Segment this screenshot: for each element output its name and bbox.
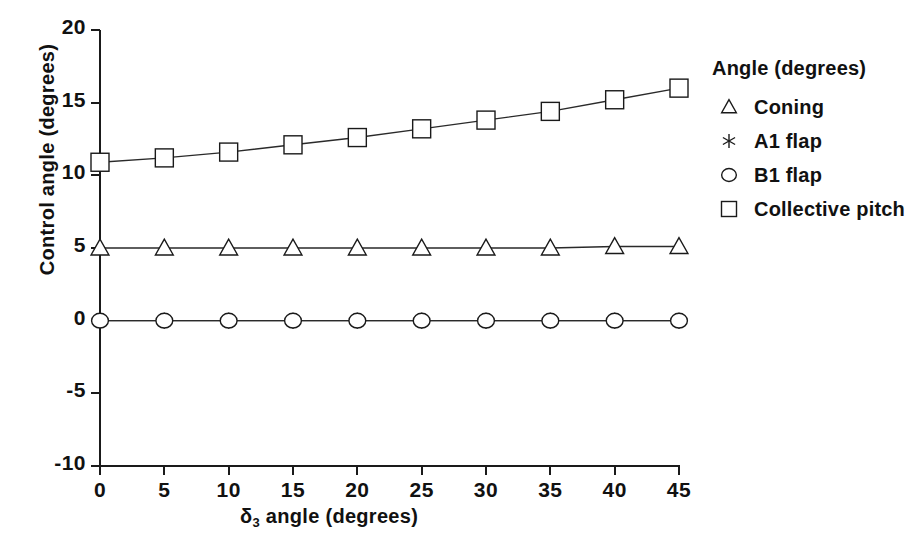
legend-item-coning: Coning [712, 90, 892, 124]
triangle-marker-icon [220, 239, 238, 255]
square-marker-icon [670, 79, 688, 97]
circle-marker-icon [478, 313, 495, 328]
y-tick [91, 174, 100, 176]
y-tick [91, 392, 100, 394]
circle-marker-icon [156, 313, 173, 328]
square-marker-icon [722, 202, 737, 217]
square-marker-icon [712, 196, 746, 222]
asterisk-marker-icon [479, 313, 493, 329]
legend-rows: ConingA1 flapB1 flapCollective pitch [712, 90, 892, 226]
asterisk-marker-icon [712, 128, 746, 154]
circle-marker-icon [285, 313, 302, 328]
y-tick-label: -5 [66, 378, 86, 402]
y-tick-label: 15 [62, 88, 86, 112]
x-axis-line [99, 465, 680, 467]
circle-marker-icon [722, 169, 737, 182]
triangle-marker-icon [712, 94, 746, 120]
legend-item-label: Collective pitch [754, 198, 905, 221]
x-tick [549, 466, 551, 475]
asterisk-marker-icon [543, 313, 557, 329]
square-marker-icon [413, 120, 431, 138]
y-tick-label: 10 [62, 160, 86, 184]
chart-legend: Angle (degrees) ConingA1 flapB1 flapColl… [712, 57, 892, 226]
x-tick [99, 466, 101, 475]
y-axis-title: Control angle (degrees) [36, 20, 59, 300]
triangle-marker-icon [541, 239, 559, 255]
x-axis-title-symbol: δ [240, 505, 252, 527]
circle-marker-icon [542, 313, 559, 328]
x-tick [678, 466, 680, 475]
triangle-marker-icon [722, 100, 737, 113]
y-tick-label: 0 [74, 306, 86, 330]
x-tick [228, 466, 230, 475]
y-tick-label: 5 [74, 233, 86, 257]
square-marker-icon [155, 149, 173, 167]
circle-marker-icon [220, 313, 237, 328]
x-axis-title-text: angle (degrees) [266, 505, 418, 527]
square-marker-icon [348, 129, 366, 147]
circle-marker-icon [606, 313, 623, 328]
triangle-marker-icon [155, 239, 173, 255]
asterisk-marker-icon [222, 313, 236, 329]
asterisk-marker-icon [350, 313, 364, 329]
legend-item-a1-flap: A1 flap [712, 124, 892, 158]
y-tick [91, 247, 100, 249]
series-line [100, 88, 679, 162]
legend-title: Angle (degrees) [712, 57, 892, 80]
x-tick-label: 30 [474, 478, 498, 502]
x-tick [614, 466, 616, 475]
asterisk-marker-icon [157, 313, 171, 329]
asterisk-marker-icon [672, 313, 686, 329]
x-tick-label: 5 [158, 478, 170, 502]
triangle-marker-icon [284, 239, 302, 255]
series-markers [91, 79, 688, 329]
legend-item-label: Coning [754, 96, 824, 119]
triangle-marker-icon [348, 239, 366, 255]
circle-marker-icon [712, 162, 746, 188]
triangle-marker-icon [606, 238, 624, 254]
circle-marker-icon [671, 313, 688, 328]
x-tick-label: 15 [281, 478, 305, 502]
asterisk-marker-icon [723, 134, 735, 148]
square-marker-icon [284, 136, 302, 154]
y-tick [91, 102, 100, 104]
asterisk-marker-icon [415, 313, 429, 329]
asterisk-marker-icon [286, 313, 300, 329]
x-tick-label: 20 [345, 478, 369, 502]
series-line [100, 247, 679, 248]
y-tick [91, 320, 100, 322]
y-tick [91, 29, 100, 31]
square-marker-icon [541, 102, 559, 120]
x-tick-label: 0 [94, 478, 106, 502]
triangle-marker-icon [413, 239, 431, 255]
x-tick [485, 466, 487, 475]
x-tick [163, 466, 165, 475]
x-tick-label: 25 [409, 478, 433, 502]
legend-item-label: A1 flap [754, 130, 822, 153]
x-tick-label: 10 [216, 478, 240, 502]
y-tick-label: -10 [54, 451, 86, 475]
legend-item-b1-flap: B1 flap [712, 158, 892, 192]
legend-item-label: B1 flap [754, 164, 822, 187]
triangle-marker-icon [670, 238, 688, 254]
x-tick [421, 466, 423, 475]
square-marker-icon [606, 91, 624, 109]
legend-item-collective-pitch: Collective pitch [712, 192, 892, 226]
x-tick-label: 45 [667, 478, 691, 502]
square-marker-icon [477, 111, 495, 129]
x-axis-title-subscript: 3 [252, 515, 260, 530]
circle-marker-icon [413, 313, 430, 328]
x-tick-label: 35 [538, 478, 562, 502]
x-tick [292, 466, 294, 475]
asterisk-marker-icon [608, 313, 622, 329]
circle-marker-icon [349, 313, 366, 328]
y-tick-label: 20 [62, 15, 86, 39]
series-lines [100, 88, 679, 321]
x-axis-title: δ3 angle (degrees) [240, 505, 418, 528]
square-marker-icon [220, 143, 238, 161]
triangle-marker-icon [477, 239, 495, 255]
x-tick [356, 466, 358, 475]
x-tick-label: 40 [602, 478, 626, 502]
